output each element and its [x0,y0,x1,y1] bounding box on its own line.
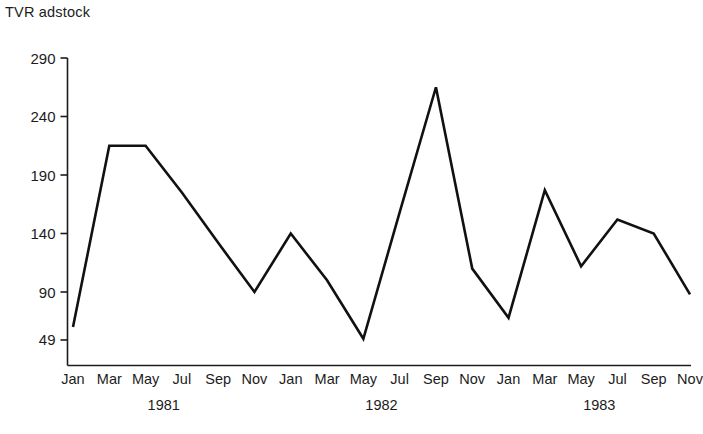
x-tick-label: May [132,371,160,387]
x-tick-label: May [567,371,595,387]
x-tick-label: Mar [315,371,340,387]
y-tick-label: 90 [39,284,56,301]
x-tick-label: Jul [173,371,192,387]
line-chart-plot: 4990140190240290 JanMarMayJulSepNovJanMa… [0,0,703,434]
y-tick-label: 140 [30,225,55,242]
x-tick-label: Jan [279,371,302,387]
y-axis: 4990140190240290 [30,50,67,366]
series-line-tvr-adstock [73,87,690,339]
x-tick-label: May [350,371,378,387]
x-tick-label: Nov [677,371,703,387]
year-label: 1981 [148,397,180,413]
y-tick-label: 240 [30,108,55,125]
x-tick-label: Mar [532,371,557,387]
data-series-group [73,87,690,339]
x-tick-label: Nov [459,371,486,387]
y-tick-label: 49 [39,331,56,348]
x-tick-labels: JanMarMayJulSepNovJanMarMayJulSepNovJanM… [61,371,703,387]
x-tick-label: Sep [423,371,449,387]
x-tick-label: Sep [205,371,231,387]
x-tick-label: Jul [608,371,627,387]
year-group-labels: 198119821983 [148,397,616,413]
x-tick-label: Mar [97,371,122,387]
x-tick-label: Sep [641,371,667,387]
chart-container: TVR adstock 4990140190240290 JanMarMayJu… [0,0,703,434]
year-label: 1982 [365,397,397,413]
x-tick-label: Jan [61,371,84,387]
y-tick-label: 190 [30,167,55,184]
x-tick-label: Jul [390,371,409,387]
x-tick-label: Nov [242,371,269,387]
year-label: 1983 [583,397,615,413]
y-tick-label: 290 [30,50,55,67]
x-tick-label: Jan [497,371,520,387]
